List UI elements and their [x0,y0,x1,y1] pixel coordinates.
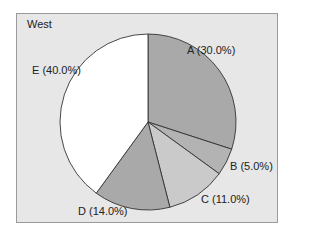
label-b: B (5.0%) [230,160,273,172]
label-c: C (11.0%) [201,193,250,205]
label-e: E (40.0%) [32,64,81,76]
label-a: A (30.0%) [187,44,235,56]
label-d: D (14.0%) [78,205,128,217]
